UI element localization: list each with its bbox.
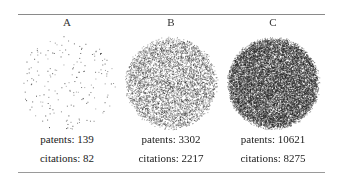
panel-label: A	[12, 16, 122, 28]
patents-count: patents: 10621	[218, 133, 328, 145]
citations-count: citations: 82	[12, 152, 122, 164]
panel-a: A patents: 139 citations: 82	[12, 15, 122, 171]
citations-count: citations: 2217	[116, 152, 226, 164]
patents-count: patents: 139	[12, 133, 122, 145]
bottom-rule	[18, 172, 325, 173]
citations-count: citations: 8275	[218, 152, 328, 164]
panel-label: B	[116, 16, 226, 28]
patents-count: patents: 3302	[116, 133, 226, 145]
panel-label: C	[218, 16, 328, 28]
panel-c: C patents: 10621 citations: 8275	[218, 15, 328, 171]
scatter-cloud-c	[223, 33, 323, 133]
scatter-cloud-a	[17, 33, 117, 133]
panel-b: B patents: 3302 citations: 2217	[116, 15, 226, 171]
scatter-cloud-b	[121, 33, 221, 133]
